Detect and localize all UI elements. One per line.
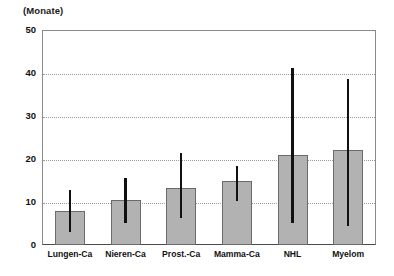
bar-group [166, 30, 196, 245]
y-tick-label: 10 [0, 197, 36, 207]
chart-root: (Monate) 01020304050 Lungen-CaNieren-CaP… [0, 0, 394, 276]
x-tick-label: Myelom [332, 250, 364, 259]
bar-group [222, 30, 252, 245]
error-bar [236, 166, 238, 201]
error-bar [180, 153, 182, 218]
x-tick-label: Prost.-Ca [162, 250, 200, 259]
error-bar [124, 178, 126, 224]
bar-group [111, 30, 141, 245]
error-bar [69, 190, 71, 232]
x-axis-labels: Lungen-CaNieren-CaProst.-CaMamma-CaNHLMy… [42, 250, 376, 270]
error-bar [347, 79, 349, 225]
error-bar [291, 68, 293, 224]
y-axis-title: (Monate) [23, 5, 63, 16]
x-tick-label: Mamma-Ca [214, 250, 260, 259]
x-tick-label: Nieren-Ca [105, 250, 146, 259]
y-tick-label: 50 [0, 25, 36, 35]
bar-group [278, 30, 308, 245]
x-tick-label: NHL [284, 250, 302, 259]
bar-group [333, 30, 363, 245]
y-tick-label: 0 [0, 240, 36, 250]
bars-layer [42, 30, 376, 245]
y-tick-label: 30 [0, 111, 36, 121]
y-tick-label: 40 [0, 68, 36, 78]
y-tick-label: 20 [0, 154, 36, 164]
bar-group [55, 30, 85, 245]
x-tick-label: Lungen-Ca [47, 250, 92, 259]
